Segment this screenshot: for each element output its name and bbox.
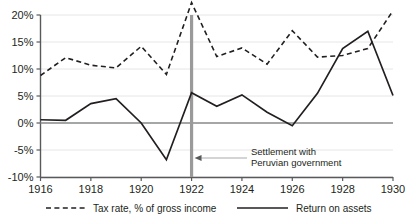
x-tick-label: 1928 [330, 183, 354, 195]
legend-label-return-on-assets: Return on assets [296, 203, 372, 214]
y-tick-label: 5% [18, 90, 34, 102]
x-tick-label: 1922 [179, 183, 203, 195]
annotation-text-line2: Peruvian government [251, 157, 342, 168]
annotation-text-line1: Settlement with [251, 146, 316, 157]
y-tick-label: 10% [11, 63, 33, 75]
chart-container: 20%15%10%5%0%-5%-10% 1916191819201922192… [0, 0, 407, 223]
x-tick-label: 1918 [79, 183, 103, 195]
y-tick-label: 0% [18, 117, 34, 129]
y-tick-label: 20% [11, 9, 33, 21]
y-tick-label: -10% [8, 171, 34, 183]
x-tick-label: 1920 [129, 183, 153, 195]
x-tick-label: 1924 [230, 183, 254, 195]
y-tick-label: 15% [11, 36, 33, 48]
x-tick-label: 1926 [280, 183, 304, 195]
x-tick-label: 1916 [28, 183, 52, 195]
y-tick-label: -5% [14, 144, 34, 156]
x-tick-label: 1930 [381, 183, 405, 195]
legend: Tax rate, % of gross income Return on as… [46, 203, 372, 214]
line-chart: 20%15%10%5%0%-5%-10% 1916191819201922192… [0, 0, 407, 223]
legend-label-tax-rate: Tax rate, % of gross income [93, 203, 217, 214]
